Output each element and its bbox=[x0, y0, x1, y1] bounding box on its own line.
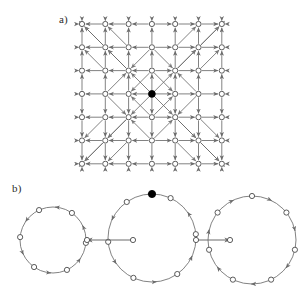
grid-node[interactable] bbox=[126, 161, 131, 166]
cycle-arrow-left bbox=[83, 226, 84, 227]
cycle-node-marked[interactable] bbox=[148, 190, 155, 197]
panel-label-b: b) bbox=[12, 182, 22, 194]
grid-node-marked[interactable] bbox=[149, 91, 156, 98]
grid-edge-diagonal bbox=[201, 27, 219, 45]
cycle-node-middle[interactable] bbox=[175, 271, 180, 276]
grid-node[interactable] bbox=[219, 161, 224, 166]
cycle-node-middle[interactable] bbox=[168, 196, 173, 201]
grid-node[interactable] bbox=[196, 45, 201, 50]
grid-node[interactable] bbox=[173, 21, 178, 26]
grid-node[interactable] bbox=[196, 68, 201, 73]
grid-edge-diagonal bbox=[131, 120, 149, 138]
grid-node[interactable] bbox=[126, 138, 131, 143]
grid-node[interactable] bbox=[79, 138, 84, 143]
cycle-arrow-right bbox=[271, 200, 272, 201]
grid-edge-diagonal bbox=[154, 50, 172, 68]
grid-node[interactable] bbox=[173, 68, 178, 73]
grid-node[interactable] bbox=[219, 115, 224, 120]
grid-node[interactable] bbox=[173, 115, 178, 120]
grid-edge-diagonal bbox=[201, 120, 219, 138]
grid-node[interactable] bbox=[103, 161, 108, 166]
cycle-node-left[interactable] bbox=[64, 267, 69, 272]
grid-node[interactable] bbox=[79, 45, 84, 50]
grid-edge-diagonal bbox=[178, 73, 196, 91]
cycle-ring-left bbox=[20, 207, 86, 273]
cycle-arrow-middle bbox=[116, 263, 117, 264]
grid-node[interactable] bbox=[173, 91, 178, 96]
grid-node[interactable] bbox=[149, 45, 154, 50]
grid-node[interactable] bbox=[79, 115, 84, 120]
grid-node[interactable] bbox=[103, 45, 108, 50]
cycle-arrow-right bbox=[217, 267, 218, 268]
grid-node[interactable] bbox=[149, 21, 154, 26]
grid-node[interactable] bbox=[126, 68, 131, 73]
grid-node[interactable] bbox=[196, 161, 201, 166]
grid-node[interactable] bbox=[149, 161, 154, 166]
grid-node[interactable] bbox=[173, 45, 178, 50]
grid-node[interactable] bbox=[173, 138, 178, 143]
grid-node[interactable] bbox=[79, 91, 84, 96]
grid-node[interactable] bbox=[103, 21, 108, 26]
grid-node[interactable] bbox=[103, 138, 108, 143]
cycle-node-right[interactable] bbox=[292, 247, 297, 252]
right-connector bbox=[193, 237, 232, 242]
cycle-arrow-middle bbox=[112, 219, 113, 220]
grid-node[interactable] bbox=[79, 161, 84, 166]
cycle-node-right[interactable] bbox=[207, 247, 212, 252]
cycle-node-right[interactable] bbox=[249, 193, 254, 198]
grid-node[interactable] bbox=[219, 68, 224, 73]
grid-node[interactable] bbox=[219, 138, 224, 143]
cycle-arrow-left bbox=[23, 253, 24, 254]
connector-node[interactable] bbox=[193, 237, 198, 242]
grid-node[interactable] bbox=[149, 115, 154, 120]
grid-node[interactable] bbox=[173, 161, 178, 166]
cycle-node-left[interactable] bbox=[18, 235, 23, 240]
cycle-node-left[interactable] bbox=[36, 207, 41, 212]
cycle-node-left[interactable] bbox=[69, 210, 74, 215]
grid-edge-diagonal bbox=[178, 50, 196, 68]
grid-node[interactable] bbox=[103, 68, 108, 73]
cycle-node-left[interactable] bbox=[31, 264, 36, 269]
cycle-arrow-left bbox=[26, 221, 27, 222]
grid-edge-diagonal bbox=[108, 27, 126, 45]
cycle-ring-middle bbox=[108, 194, 196, 282]
grid-node[interactable] bbox=[103, 115, 108, 120]
grid-node[interactable] bbox=[219, 91, 224, 96]
grid-node[interactable] bbox=[219, 45, 224, 50]
cycle-node-right[interactable] bbox=[284, 210, 289, 215]
cycle-arrow-left bbox=[80, 258, 81, 259]
grid-node[interactable] bbox=[79, 68, 84, 73]
grid-edge-diagonal bbox=[178, 96, 196, 114]
cycle-node-right[interactable] bbox=[215, 210, 220, 215]
connector-node[interactable] bbox=[130, 237, 135, 242]
grid-node[interactable] bbox=[126, 115, 131, 120]
grid-node[interactable] bbox=[196, 138, 201, 143]
connector-node[interactable] bbox=[84, 237, 89, 242]
cycle-middle bbox=[106, 190, 199, 282]
grid-node[interactable] bbox=[219, 21, 224, 26]
cycle-node-right[interactable] bbox=[230, 277, 235, 282]
grid-node[interactable] bbox=[126, 21, 131, 26]
cycle-node-middle[interactable] bbox=[193, 232, 198, 237]
grid-node[interactable] bbox=[79, 21, 84, 26]
grid-edge-diagonal bbox=[85, 50, 103, 68]
grid-node[interactable] bbox=[196, 115, 201, 120]
grid-edge-diagonal bbox=[108, 143, 126, 161]
grid-edge-diagonal bbox=[108, 120, 126, 138]
grid-node[interactable] bbox=[196, 21, 201, 26]
grid-node[interactable] bbox=[126, 45, 131, 50]
grid-node[interactable] bbox=[103, 91, 108, 96]
grid-node[interactable] bbox=[149, 68, 154, 73]
grid-edge-diagonal bbox=[154, 120, 172, 138]
grid-node[interactable] bbox=[149, 138, 154, 143]
cycle-node-middle[interactable] bbox=[124, 199, 129, 204]
cycle-arrow-middle bbox=[188, 212, 189, 213]
connector-node[interactable] bbox=[227, 237, 232, 242]
grid-node[interactable] bbox=[196, 91, 201, 96]
panel-label-a: a) bbox=[59, 13, 68, 25]
grid-node[interactable] bbox=[126, 91, 131, 96]
cycle-node-right[interactable] bbox=[268, 277, 273, 282]
cycle-right bbox=[207, 193, 298, 284]
panel-a-grid-graph bbox=[79, 21, 226, 168]
cycle-node-middle[interactable] bbox=[131, 275, 136, 280]
